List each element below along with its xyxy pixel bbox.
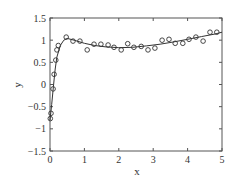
data-point-marker — [201, 39, 206, 44]
x-tick-label: 2 — [116, 154, 121, 165]
y-tick-label: 0.5 — [34, 57, 47, 68]
y-tick-labels: −1.5−1−0.500.511.5 — [28, 13, 46, 157]
fit-line — [50, 32, 222, 120]
x-tick-label: 5 — [220, 154, 225, 165]
x-tick-label: 1 — [82, 154, 87, 165]
data-point-marker — [125, 41, 130, 46]
x-tick-labels: 012345 — [48, 154, 225, 165]
x-tick-label: 4 — [185, 154, 190, 165]
x-tick-label: 0 — [48, 154, 53, 165]
data-point-marker — [160, 38, 165, 43]
data-point-marker — [208, 30, 213, 35]
data-point-marker — [181, 41, 186, 46]
data-point-marker — [85, 48, 90, 53]
data-point-marker — [153, 46, 158, 51]
data-markers — [48, 30, 219, 121]
data-point-marker — [146, 48, 151, 53]
y-axis-label: y — [11, 82, 23, 88]
data-point-marker — [119, 48, 124, 53]
x-tick-label: 3 — [151, 154, 156, 165]
y-tick-label: −0.5 — [28, 101, 46, 112]
data-point-marker — [167, 37, 172, 42]
chart: 012345 −1.5−1−0.500.511.5 x y — [0, 0, 238, 183]
y-tick-label: −1.5 — [28, 146, 46, 157]
y-tick-label: 0 — [41, 79, 46, 90]
y-tick-label: 1 — [41, 35, 46, 46]
y-tick-label: 1.5 — [34, 13, 47, 24]
x-axis-label: x — [134, 165, 140, 177]
y-tick-label: −1 — [35, 123, 46, 134]
